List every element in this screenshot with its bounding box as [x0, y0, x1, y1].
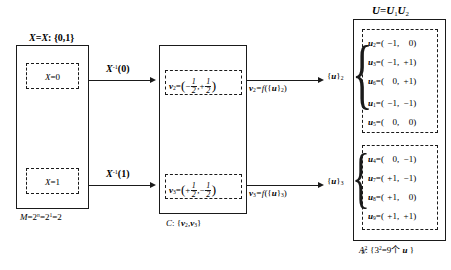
arrow-label-x-inv-0: X-1(0) [106, 64, 130, 74]
title-U1: U [386, 4, 394, 16]
right-box-bottom-label: A2U: {32=9个 u } [359, 246, 414, 255]
u-item-1: u1=(−1,−1) [368, 99, 416, 108]
u-item-4: u4=(0,−1) [368, 155, 416, 164]
vector-v3: v3=(+12,−12) [169, 182, 216, 200]
vector-v2: v2=(−12,+12) [169, 78, 216, 96]
u-item-2: u2=(−1,0) [368, 39, 416, 48]
diagram-canvas: U=U1U2 X=X: {0,1} X=0 X=1 M=2n=21=2 X-1(… [0, 0, 451, 270]
middle-box-inner-bottom: v3=(+12,−12) [165, 174, 242, 199]
arrow-line-top-right [247, 80, 319, 81]
arrow-head-bottom-left [150, 182, 156, 188]
set-label-u2: {u}2 [327, 72, 343, 81]
u-item-9: u9=(+1,+1) [368, 212, 416, 221]
middle-box-bottom-label: C: {v2,v3} [166, 219, 201, 228]
title-U2: U [398, 4, 406, 16]
arrow-label-x-inv-1: X-1(1) [106, 169, 130, 179]
left-box-inner-bottom: X=1 [26, 168, 79, 194]
arrow-label-v3-f: v3=f({u}3) [249, 189, 287, 198]
arrow-head-bottom-right [318, 182, 324, 188]
u-item-3: u3=(−1,+1) [368, 58, 416, 67]
u-item-7: u7=(+1,−1) [368, 174, 416, 183]
left-inner-top-label: X=0 [27, 73, 78, 82]
arrow-line-bottom-left [89, 185, 151, 186]
right-panel-title: U=U1U2 [372, 5, 409, 16]
u-item-5: u5=(0,0) [368, 118, 416, 127]
right-group-bottom: u4=(0,−1) u7=(+1,−1) u8=(+1,0) u9=(+1,+1… [362, 145, 438, 230]
middle-box-inner-top: v2=(−12,+12) [165, 70, 242, 95]
left-box-title: X=X: {0,1} [29, 33, 74, 43]
u-item-8: u8=(+1,0) [368, 193, 416, 202]
right-group-top: u2=(−1,0) u3=(−1,+1) u6=(0,+1) u1=(−1,−1… [362, 29, 438, 133]
title-U: U [372, 4, 380, 16]
arrow-head-top-left [150, 77, 156, 83]
arrow-line-top-left [89, 80, 151, 81]
left-box-inner-top: X=0 [26, 63, 79, 89]
arrow-line-bottom-right [247, 185, 319, 186]
arrow-label-v2-f: v2=f({u}2) [249, 84, 287, 93]
u-item-6: u6=(0,+1) [368, 77, 416, 86]
left-box-bottom-label: M=2n=21=2 [20, 213, 62, 222]
set-label-u3: {u}3 [327, 177, 343, 186]
arrow-head-top-right [318, 77, 324, 83]
left-inner-bottom-label: X=1 [27, 178, 78, 187]
